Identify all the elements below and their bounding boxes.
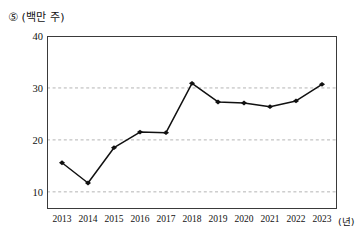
data-point-marker [267, 104, 273, 109]
y-axis-tick-labels: 10203040 [0, 0, 47, 245]
x-axis-tick: 2018 [183, 214, 202, 224]
x-axis-tick: 2017 [157, 214, 176, 224]
x-axis-tick: 2022 [287, 214, 306, 224]
line-series [47, 36, 337, 209]
x-axis-tick: 2016 [131, 214, 150, 224]
x-axis-tick: 2021 [261, 214, 280, 224]
x-axis-tick-labels: 2013201420152016201720182019202020212022… [0, 214, 362, 236]
x-axis-tick: 2015 [105, 214, 124, 224]
x-axis-tick: 2014 [79, 214, 98, 224]
series-line [62, 83, 322, 183]
x-axis-tick: 2023 [313, 214, 332, 224]
chart-container: ⑤(백만 주) 10203040 20132014201520162017201… [0, 0, 362, 245]
y-axis-tick: 40 [5, 31, 47, 42]
data-point-marker [241, 101, 247, 106]
y-axis-tick: 20 [5, 134, 47, 145]
x-axis-tick: 2020 [235, 214, 254, 224]
x-axis-unit-label: (년) [338, 214, 354, 228]
y-axis-tick: 30 [5, 82, 47, 93]
x-axis-tick: 2019 [209, 214, 228, 224]
y-axis-tick: 10 [5, 186, 47, 197]
x-axis-tick: 2013 [53, 214, 72, 224]
data-point-marker [163, 130, 169, 135]
